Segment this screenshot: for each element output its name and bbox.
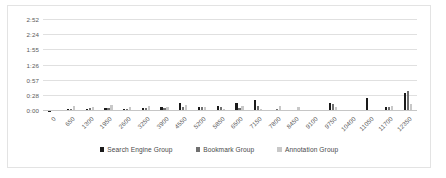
legend-swatch-icon xyxy=(100,147,105,152)
x-axis-tick-label: 5200 xyxy=(192,115,207,130)
bar-group xyxy=(174,19,193,111)
legend-item[interactable]: Search Engine Group xyxy=(100,146,173,153)
bar-group xyxy=(267,19,286,111)
bar-group xyxy=(211,19,230,111)
x-axis-tick-label: 1950 xyxy=(98,115,113,130)
bar-group xyxy=(342,19,361,111)
x-axis-tick-label: 3250 xyxy=(136,115,151,130)
bar-group xyxy=(155,19,174,111)
bar-group xyxy=(324,19,343,111)
legend-label: Annotation Group xyxy=(285,146,338,153)
bar-group xyxy=(137,19,156,111)
y-axis-tick-label: 0:57 xyxy=(27,76,39,83)
chart-container: 2:522:241:551:260:570:280:00 06501300195… xyxy=(7,5,431,168)
bar-group xyxy=(230,19,249,111)
bar-group xyxy=(361,19,380,111)
x-axis-tick-cell: 1950 xyxy=(99,113,118,143)
x-axis-tick-cell: 650 xyxy=(62,113,81,143)
x-axis-tick-label: 10400 xyxy=(339,115,356,132)
x-axis-tick-label: 6500 xyxy=(229,115,244,130)
x-axis-tick-label: 9750 xyxy=(323,115,338,130)
x-axis-tick-labels: 0650130019502600325039004550520058506500… xyxy=(43,113,417,143)
x-axis-tick-label: 4550 xyxy=(173,115,188,130)
bar-series-container xyxy=(43,19,417,111)
x-axis-tick-cell: 4550 xyxy=(174,113,193,143)
bar[interactable] xyxy=(407,91,409,111)
y-axis-tick-label: 0:28 xyxy=(27,91,39,98)
x-axis-tick-cell: 8450 xyxy=(286,113,305,143)
x-axis-tick-cell: 9100 xyxy=(305,113,324,143)
bar-group xyxy=(398,19,417,111)
bar[interactable] xyxy=(366,98,368,111)
legend-label: Search Engine Group xyxy=(107,146,172,153)
bar-group xyxy=(193,19,212,111)
x-axis-tick-cell: 7800 xyxy=(267,113,286,143)
x-axis-tick-label: 650 xyxy=(64,115,76,127)
x-axis-tick-label: 11700 xyxy=(377,115,394,132)
x-axis-tick-cell: 7150 xyxy=(249,113,268,143)
legend-swatch-icon xyxy=(277,147,282,152)
bar[interactable] xyxy=(404,93,406,111)
x-axis-tick-cell: 1300 xyxy=(80,113,99,143)
x-axis-line xyxy=(43,110,417,111)
x-axis-tick-label: 9100 xyxy=(304,115,319,130)
bar-group xyxy=(80,19,99,111)
x-axis-tick-cell: 5850 xyxy=(211,113,230,143)
x-axis-tick-label: 7150 xyxy=(248,115,263,130)
bar-group xyxy=(249,19,268,111)
x-axis-tick-label: 5850 xyxy=(211,115,226,130)
x-axis-tick-cell: 0 xyxy=(43,113,62,143)
y-axis-tick-label: 2:52 xyxy=(27,16,39,23)
x-axis-tick-label: 0 xyxy=(50,115,57,122)
x-axis-tick-label: 12350 xyxy=(395,115,412,132)
bar-group xyxy=(118,19,137,111)
x-axis-tick-label: 7800 xyxy=(267,115,282,130)
bar-group xyxy=(43,19,62,111)
legend-label: Bookmark Group xyxy=(203,146,254,153)
plot-area: 2:522:241:551:260:570:280:00 xyxy=(43,19,417,111)
x-axis-tick-cell: 3250 xyxy=(137,113,156,143)
x-axis-tick-label: 2600 xyxy=(117,115,132,130)
legend-swatch-icon xyxy=(196,147,201,152)
y-axis-tick-label: 1:26 xyxy=(27,61,39,68)
bar-group xyxy=(62,19,81,111)
legend-item[interactable]: Bookmark Group xyxy=(196,146,255,153)
bar-group xyxy=(305,19,324,111)
y-axis-tick-label: 2:24 xyxy=(27,31,39,38)
x-axis-tick-cell: 6500 xyxy=(230,113,249,143)
x-axis-tick-cell: 5200 xyxy=(193,113,212,143)
y-axis-tick-label: 0:00 xyxy=(27,107,39,114)
x-axis-tick-cell: 12350 xyxy=(398,113,417,143)
bar-group xyxy=(286,19,305,111)
bar-group xyxy=(380,19,399,111)
chart-legend: Search Engine GroupBookmark GroupAnnotat… xyxy=(8,146,430,153)
bar-group xyxy=(99,19,118,111)
x-axis-tick-label: 11050 xyxy=(358,115,375,132)
y-axis-tick-label: 1:55 xyxy=(27,46,39,53)
x-axis-tick-cell: 3900 xyxy=(155,113,174,143)
x-axis-tick-label: 3900 xyxy=(155,115,170,130)
x-axis-tick-label: 8450 xyxy=(285,115,300,130)
x-axis-tick-cell: 2600 xyxy=(118,113,137,143)
legend-item[interactable]: Annotation Group xyxy=(277,146,338,153)
x-axis-tick-label: 1300 xyxy=(80,115,95,130)
